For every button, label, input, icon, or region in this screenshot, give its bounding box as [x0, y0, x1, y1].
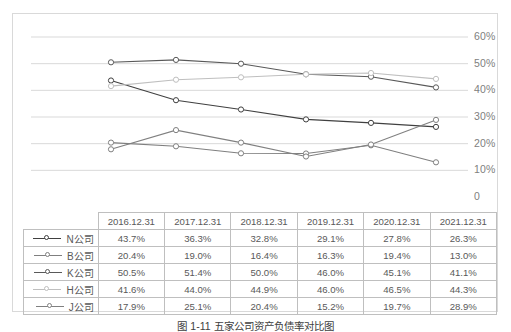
table-column-header-1: 2017.12.31: [165, 213, 231, 230]
data-point-marker: [173, 128, 178, 133]
series-line-0: [111, 81, 436, 127]
y-axis-label-10pct: 10%: [474, 163, 496, 175]
series-line-4: [111, 120, 436, 157]
table-body: N公司43.7%36.3%32.8%29.1%27.8%26.3%B公司20.4…: [24, 230, 497, 315]
legend-marker-dot: [45, 252, 50, 257]
table-column-header-0: 2016.12.31: [98, 213, 164, 230]
legend-cell-J公司: J公司: [24, 298, 99, 315]
y-axis-label-60pct: 60%: [474, 30, 496, 42]
y-axis-label-40pct: 40%: [474, 83, 496, 95]
table-cell: 41.1%: [430, 264, 496, 281]
table-cell: 44.3%: [430, 281, 496, 298]
data-point-marker: [173, 144, 178, 149]
table-cell: 50.0%: [231, 264, 297, 281]
table-cell: 20.4%: [98, 247, 164, 264]
data-point-marker: [108, 60, 113, 65]
table-cell: 46.0%: [297, 264, 363, 281]
series-line-1: [111, 143, 436, 163]
table-row: B公司20.4%19.0%16.4%16.3%19.4%13.0%: [24, 247, 497, 264]
y-axis-label-50pct: 50%: [474, 57, 496, 69]
data-point-marker: [108, 84, 113, 89]
table-cell: 17.9%: [98, 298, 164, 315]
figure-caption: 图 1-11 五家公司资产负债率对比图: [0, 318, 511, 332]
legend-cell-K公司: K公司: [24, 264, 99, 281]
data-point-marker: [303, 117, 308, 122]
legend-cell-B公司: B公司: [24, 247, 99, 264]
legend-marker-dot: [44, 286, 49, 291]
legend-cell-N公司: N公司: [24, 230, 99, 247]
table-cell: 32.8%: [231, 230, 297, 247]
y-axis-label-0: 0: [474, 190, 480, 202]
table-cell: 25.1%: [165, 298, 231, 315]
series-name-label: N公司: [66, 234, 93, 245]
data-point-marker: [173, 77, 178, 82]
series-name-label: B公司: [67, 251, 94, 262]
table-row: J公司17.9%25.1%20.4%15.2%19.7%28.9%: [24, 298, 497, 315]
data-point-marker: [173, 57, 178, 62]
data-point-marker: [433, 160, 438, 165]
data-point-marker: [303, 154, 308, 159]
legend-marker-dot: [44, 235, 49, 240]
data-point-marker: [238, 151, 243, 156]
table-cell: 44.9%: [231, 281, 297, 298]
legend-marker-dot: [47, 303, 52, 308]
table-cell: 43.7%: [98, 230, 164, 247]
chart-plot-area: 010%20%30%40%50%60%: [13, 14, 499, 214]
y-axis-label-20pct: 20%: [474, 137, 496, 149]
table-cell: 19.7%: [364, 298, 430, 315]
series-name-label: H公司: [66, 285, 93, 296]
table-cell: 16.3%: [297, 247, 363, 264]
table-cell: 19.4%: [364, 247, 430, 264]
legend-marker-dot: [45, 269, 50, 274]
data-point-marker: [173, 98, 178, 103]
table-row: H公司41.6%44.0%44.9%46.0%46.5%44.3%: [24, 281, 497, 298]
table-cell: 15.2%: [297, 298, 363, 315]
table-column-header-3: 2019.12.31: [297, 213, 363, 230]
table-cell: 20.4%: [231, 298, 297, 315]
data-point-marker: [433, 124, 438, 129]
figure-frame: 010%20%30%40%50%60% 2016.12.312017.12.31…: [12, 13, 498, 312]
table-column-header-5: 2021.12.31: [430, 213, 496, 230]
table-cell: 41.6%: [98, 281, 164, 298]
data-point-marker: [433, 76, 438, 81]
data-point-marker: [238, 140, 243, 145]
data-point-marker: [238, 75, 243, 80]
legend-line-marker-icon: [36, 302, 64, 311]
table-cell: 13.0%: [430, 247, 496, 264]
table-column-header-4: 2020.12.31: [364, 213, 430, 230]
legend-line-marker-icon: [33, 285, 61, 294]
table-cell: 26.3%: [430, 230, 496, 247]
legend-cell-H公司: H公司: [24, 281, 99, 298]
table-cell: 50.5%: [98, 264, 164, 281]
y-axis-label-30pct: 30%: [474, 110, 496, 122]
data-point-marker: [108, 147, 113, 152]
data-point-marker: [368, 120, 373, 125]
series-name-label: J公司: [69, 302, 94, 313]
data-point-marker: [368, 142, 373, 147]
data-point-marker: [433, 85, 438, 90]
table-cell: 28.9%: [430, 298, 496, 315]
table-cell: 46.5%: [364, 281, 430, 298]
table-column-header-2: 2018.12.31: [231, 213, 297, 230]
table-corner-cell: [24, 213, 99, 230]
table-cell: 27.8%: [364, 230, 430, 247]
table-row: N公司43.7%36.3%32.8%29.1%27.8%26.3%: [24, 230, 497, 247]
table-cell: 44.0%: [165, 281, 231, 298]
data-point-marker: [238, 61, 243, 66]
table-cell: 16.4%: [231, 247, 297, 264]
table-row: K公司50.5%51.4%50.0%46.0%45.1%41.1%: [24, 264, 497, 281]
table-cell: 36.3%: [165, 230, 231, 247]
data-point-marker: [108, 140, 113, 145]
table-cell: 46.0%: [297, 281, 363, 298]
data-point-marker: [368, 70, 373, 75]
data-point-marker: [433, 117, 438, 122]
data-point-marker: [303, 72, 308, 77]
series-name-label: K公司: [67, 268, 94, 279]
legend-line-marker-icon: [34, 251, 62, 260]
data-point-marker: [108, 78, 113, 83]
line-chart-svg: [13, 14, 499, 214]
table-cell: 45.1%: [364, 264, 430, 281]
data-table: 2016.12.312017.12.312018.12.312019.12.31…: [23, 212, 497, 315]
table-cell: 51.4%: [165, 264, 231, 281]
legend-line-marker-icon: [33, 234, 61, 243]
